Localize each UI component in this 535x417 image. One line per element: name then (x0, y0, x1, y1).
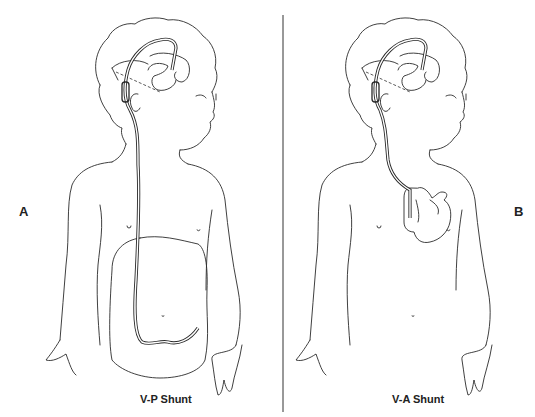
panel-a-figure (46, 18, 242, 395)
panel-b-letter: B (514, 204, 523, 219)
child-a-ear (130, 94, 140, 112)
child-b-neck (362, 144, 438, 164)
child-b-ear (380, 94, 390, 112)
vp-shunt-catheter (125, 39, 198, 343)
child-a-hair (96, 18, 217, 144)
child-a-ventricle (112, 53, 189, 90)
child-b-face (430, 92, 465, 150)
panel-b-caption: V-A Shunt (392, 393, 444, 405)
child-b-right-hand (462, 345, 492, 395)
shunt-illustration (0, 0, 535, 417)
child-a-right-hand (212, 345, 242, 395)
child-a-torso (60, 162, 240, 345)
child-b-ventricle (362, 53, 439, 90)
child-b-hair (346, 18, 467, 144)
panel-a-caption: V-P Shunt (140, 393, 192, 405)
child-a-neck (112, 144, 188, 164)
child-a-peritoneum (110, 237, 208, 378)
child-a-face (180, 92, 215, 150)
child-b-left-hand (296, 340, 326, 375)
child-b-torso (310, 162, 490, 345)
child-a-left-hand (46, 340, 76, 375)
panel-a-letter: A (19, 204, 28, 219)
panel-b-figure (296, 18, 492, 395)
